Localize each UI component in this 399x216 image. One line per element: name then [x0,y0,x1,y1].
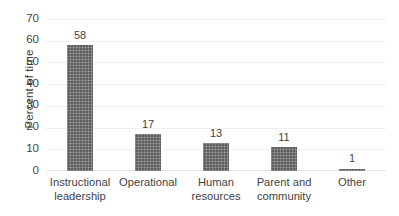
bar-other[interactable] [339,169,365,171]
x-tick-label-human-resources: Human resources [182,176,250,203]
x-tick-label-operational: Operational [114,176,182,190]
y-axis-tick-labels: 70 60 50 40 30 20 10 0 [0,0,44,216]
bar-operational[interactable] [135,134,161,171]
bar-chart: Percent of time 70 60 50 40 30 20 10 0 5… [0,0,399,216]
x-axis-category-labels: Instructional leadership Operational Hum… [46,176,386,216]
bar-human-resources[interactable] [203,143,229,171]
bar-value-label: 58 [74,30,86,41]
y-tick-label: 60 [0,34,39,46]
x-tick-label-line: Other [318,176,386,190]
x-tick-label-instructional-leadership: Instructional leadership [46,176,114,203]
y-tick-label: 70 [0,13,39,25]
y-tick-label: 0 [0,165,39,177]
bar-value-label: 11 [278,132,289,143]
bar-slot: 13 [182,19,250,171]
bar-value-label: 1 [349,153,355,164]
y-tick-label: 30 [0,99,39,111]
y-tick-label: 40 [0,78,39,90]
x-tick-label-other: Other [318,176,386,190]
bar-slot: 1 [318,19,386,171]
x-tick-label-line: Parent and [250,176,318,190]
bar-parent-and-community[interactable] [271,147,297,171]
y-tick-label: 50 [0,56,39,68]
bar-slot: 58 [46,19,114,171]
x-tick-label-line: leadership [46,190,114,204]
x-tick-label-line: Instructional [46,176,114,190]
bar-slot: 11 [250,19,318,171]
x-tick-label-line: community [250,190,318,204]
x-tick-label-parent-and-community: Parent and community [250,176,318,203]
bar-value-label: 17 [142,119,154,130]
bars-layer: 58 17 13 11 1 [46,19,386,171]
plot-area: 58 17 13 11 1 [46,19,386,171]
bar-slot: 17 [114,19,182,171]
x-tick-label-line: Human [182,176,250,190]
y-tick-label: 10 [0,143,39,155]
y-tick-label: 20 [0,121,39,133]
x-tick-label-line: resources [182,190,250,204]
bar-instructional-leadership[interactable] [67,45,93,171]
bar-value-label: 13 [210,128,222,139]
x-tick-label-line: Operational [114,176,182,190]
